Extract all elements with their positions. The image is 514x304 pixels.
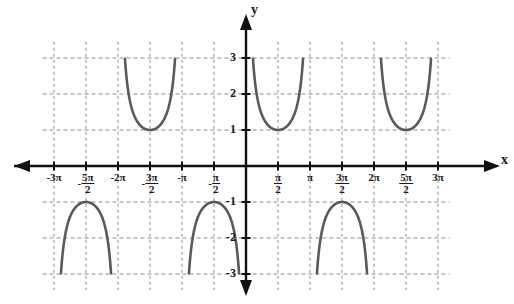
x-tick-label: -2π (110, 172, 125, 183)
coordinate-plot (0, 0, 514, 304)
x-tick-label: 5π2 (399, 172, 413, 195)
graph-canvas: -3π-5π2-2π-3π2-π-π2π2π3π22π5π23π321-1-2-… (0, 0, 514, 304)
arrow-right (484, 160, 500, 172)
axes (14, 14, 500, 296)
y-tick-label: -3 (226, 267, 236, 279)
x-axis-label: x (501, 153, 508, 167)
y-axis-label: y (251, 3, 258, 17)
x-tick-label: π (307, 172, 313, 183)
x-tick-label: -3π2 (141, 172, 158, 195)
x-tick-label: 2π (368, 172, 380, 183)
x-tick-label: π2 (274, 172, 282, 195)
x-tick-label: -3π (46, 172, 61, 183)
y-tick-label: 2 (230, 87, 236, 99)
x-tick-label: -π (177, 172, 187, 183)
x-tick-label: 3π (432, 172, 444, 183)
y-tick-label: 3 (230, 51, 236, 63)
x-tick-label: -5π2 (77, 172, 94, 195)
x-tick-label: 3π2 (335, 172, 349, 195)
y-tick-label: 1 (230, 123, 236, 135)
arrow-down (240, 280, 252, 296)
y-tick-label: -2 (226, 231, 236, 243)
y-tick-label: -1 (226, 195, 236, 207)
arrow-left (14, 160, 30, 172)
x-tick-label: -π2 (208, 172, 220, 195)
